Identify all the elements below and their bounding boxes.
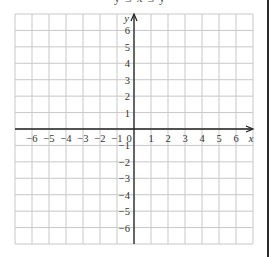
y-tick-label: −2 xyxy=(119,157,130,168)
y-tick-label: 4 xyxy=(125,58,131,69)
y-tick-label: 5 xyxy=(125,42,130,53)
axes xyxy=(15,14,253,244)
clipped-heading-text: y ≤ x ≤ y xyxy=(100,0,180,6)
y-tick-label: −6 xyxy=(119,223,130,234)
x-tick-label: −2 xyxy=(94,133,105,144)
x-tick-label: 6 xyxy=(233,133,238,144)
y-tick-label: −1 xyxy=(119,140,130,151)
x-tick-label: 2 xyxy=(165,133,170,144)
y-tick-label: −3 xyxy=(119,173,130,184)
x-tick-label: −5 xyxy=(43,133,54,144)
y-tick-label: −4 xyxy=(119,190,131,201)
x-tick-label: 1 xyxy=(148,133,153,144)
x-axis-label: x xyxy=(248,133,254,144)
x-tick-label: −6 xyxy=(26,133,37,144)
x-tick-label: 3 xyxy=(182,133,187,144)
y-tick-label: 1 xyxy=(125,108,130,119)
y-tick-label: 2 xyxy=(125,91,130,102)
cartesian-plane: −6−5−4−3−2−11234560x654321−1−2−3−4−5−6y xyxy=(0,0,270,257)
y-axis-label: y xyxy=(123,13,129,24)
y-tick-label: −5 xyxy=(119,206,130,217)
y-tick-label: 3 xyxy=(125,75,130,86)
page-edge-divider xyxy=(267,0,269,257)
x-tick-label: −3 xyxy=(77,133,88,144)
x-tick-label: 4 xyxy=(199,133,205,144)
tick-labels: −6−5−4−3−2−11234560x654321−1−2−3−4−5−6y xyxy=(26,13,253,234)
x-tick-label: 5 xyxy=(216,133,221,144)
x-tick-label: −4 xyxy=(60,133,72,144)
y-tick-label: 6 xyxy=(125,25,130,36)
coordinate-grid-figure: y ≤ x ≤ y −6−5−4−3−2−11234560x654321−1−2… xyxy=(0,0,270,257)
